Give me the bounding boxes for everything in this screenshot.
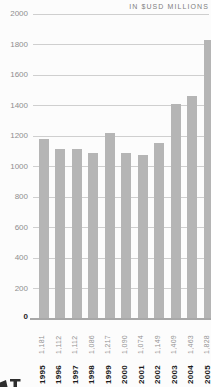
y-tick-600: 600 bbox=[0, 223, 28, 232]
value-label-1998: 1,086 bbox=[88, 321, 99, 354]
gridline-2000 bbox=[33, 14, 209, 15]
gridline-1200 bbox=[33, 136, 209, 137]
bar-2002 bbox=[154, 143, 164, 318]
value-label-1995: 1,181 bbox=[38, 321, 49, 354]
y-tick-1800: 1800 bbox=[0, 40, 28, 49]
y-tick-800: 800 bbox=[0, 192, 28, 201]
bar-2000 bbox=[121, 153, 131, 318]
x-tick-1998: 1998 bbox=[87, 358, 99, 384]
y-tick-400: 400 bbox=[0, 253, 28, 262]
bar-2003 bbox=[171, 104, 181, 318]
x-tick-2002: 2002 bbox=[153, 358, 165, 384]
x-tick-2005: 2005 bbox=[203, 358, 212, 384]
value-label-2000: 1,090 bbox=[121, 321, 132, 354]
x-tick-2004: 2004 bbox=[186, 358, 198, 384]
y-tick-1400: 1400 bbox=[0, 101, 28, 110]
gridline-1400 bbox=[33, 105, 209, 106]
x-tick-2000: 2000 bbox=[120, 358, 132, 384]
y-tick-1600: 1600 bbox=[0, 70, 28, 79]
chart-unit-label: IN $USD MILLIONS bbox=[129, 3, 209, 10]
value-label-1997: 1,112 bbox=[71, 321, 82, 354]
y-tick-0: 0 bbox=[0, 312, 28, 321]
bar-1995 bbox=[39, 139, 49, 318]
gridline-1600 bbox=[33, 75, 209, 76]
bar-chart-panel: IN $USD MILLIONS 20040060080010001200140… bbox=[0, 0, 211, 387]
x-tick-2003: 2003 bbox=[170, 358, 182, 384]
x-tick-1996: 1996 bbox=[54, 358, 66, 384]
value-label-2004: 1,463 bbox=[187, 321, 198, 354]
value-label-1999: 1,217 bbox=[104, 321, 115, 354]
value-label-2003: 1,409 bbox=[170, 321, 181, 354]
bar-1997 bbox=[72, 149, 82, 318]
value-label-2001: 1,074 bbox=[137, 321, 148, 354]
value-label-2005: 1,828 bbox=[203, 321, 211, 354]
x-tick-1995: 1995 bbox=[38, 358, 50, 384]
x-tick-1997: 1997 bbox=[71, 358, 83, 384]
x-tick-2001: 2001 bbox=[137, 358, 149, 384]
x-axis-baseline bbox=[30, 318, 211, 320]
bar-1996 bbox=[55, 149, 65, 318]
y-tick-1200: 1200 bbox=[0, 131, 28, 140]
y-tick-2000: 2000 bbox=[0, 9, 28, 18]
bar-2004 bbox=[187, 96, 197, 318]
corner-logo-fragment bbox=[0, 376, 22, 387]
bar-2005 bbox=[204, 40, 212, 318]
y-tick-200: 200 bbox=[0, 284, 28, 293]
value-label-1996: 1,112 bbox=[55, 321, 66, 354]
bar-2001 bbox=[138, 155, 148, 318]
bar-1998 bbox=[88, 153, 98, 318]
x-tick-1999: 1999 bbox=[104, 358, 116, 384]
bar-1999 bbox=[105, 133, 115, 318]
y-tick-1000: 1000 bbox=[0, 162, 28, 171]
gridline-1800 bbox=[33, 44, 209, 45]
value-label-2002: 1,149 bbox=[154, 321, 165, 354]
